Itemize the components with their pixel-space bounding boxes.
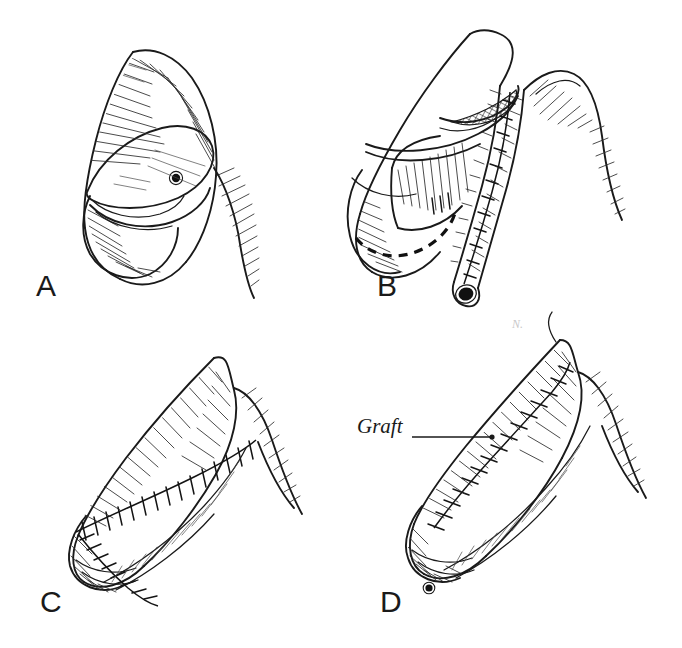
panel-letter-b: B: [377, 269, 397, 302]
panel-letter-d: D: [380, 585, 402, 618]
panel-letter-a: A: [36, 269, 56, 302]
graft-callout-anchor-dot: [489, 434, 494, 439]
panel-letter-c: C: [40, 585, 62, 618]
figure-background: [0, 0, 682, 648]
figure-root: A: [0, 0, 682, 648]
artist-mark: N.: [511, 317, 523, 331]
graft-callout-label: Graft: [357, 414, 404, 438]
panel-d-meatus-dot: [425, 584, 432, 591]
surgical-figure-canvas: A: [0, 0, 682, 648]
